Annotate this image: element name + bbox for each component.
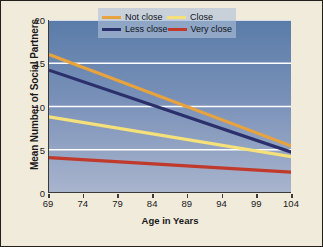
x-tick-label: 84	[137, 198, 167, 209]
chart-legend: Not closeCloseLess closeVery close	[98, 8, 236, 38]
y-axis-tick-labels: 05101520	[19, 1, 45, 247]
series-line-less-close	[49, 70, 291, 152]
legend-swatch-icon	[167, 16, 186, 19]
x-tick-label: 99	[241, 198, 271, 209]
series-line-close	[49, 117, 291, 157]
legend-row: Not closeClose	[102, 11, 232, 23]
legend-item-close: Close	[167, 12, 232, 22]
legend-label: Close	[190, 12, 213, 22]
plot-svg	[49, 20, 291, 193]
series-line-very-close	[49, 158, 291, 173]
x-tick-label: 94	[207, 198, 237, 209]
legend-swatch-icon	[102, 16, 121, 19]
legend-label: Very close	[191, 24, 233, 34]
x-tick-label: 69	[33, 198, 63, 209]
x-tick-mark	[291, 194, 293, 198]
legend-swatch-icon	[102, 28, 121, 31]
legend-item-not-close: Not close	[102, 12, 167, 22]
chart-figure: Mean Number of Social Partners 05101520 …	[0, 0, 323, 247]
x-tick-mark	[256, 194, 258, 198]
x-tick-mark	[83, 194, 85, 198]
data-lines	[49, 55, 291, 173]
x-tick-label: 79	[102, 198, 132, 209]
x-tick-label: 89	[172, 198, 202, 209]
y-tick-label: 5	[23, 144, 45, 155]
legend-item-less-close: Less close	[102, 24, 168, 34]
x-axis-title: Age in Years	[49, 215, 291, 226]
x-tick-mark	[222, 194, 224, 198]
legend-swatch-icon	[168, 28, 187, 31]
legend-label: Not close	[125, 12, 163, 22]
x-tick-mark	[48, 194, 50, 198]
y-tick-label: 15	[23, 58, 45, 69]
gridlines	[49, 20, 291, 150]
legend-row: Less closeVery close	[102, 23, 232, 35]
y-tick-label: 10	[23, 101, 45, 112]
legend-item-very-close: Very close	[168, 24, 233, 34]
x-tick-mark	[187, 194, 189, 198]
x-tick-label: 104	[276, 198, 306, 209]
x-tick-mark	[117, 194, 119, 198]
plot-area	[48, 20, 291, 193]
x-tick-mark	[152, 194, 154, 198]
y-tick-label: 20	[23, 15, 45, 26]
series-line-not-close	[49, 55, 291, 147]
y-tick-label: 0	[23, 188, 45, 199]
legend-label: Less close	[125, 24, 168, 34]
x-tick-label: 74	[68, 198, 98, 209]
